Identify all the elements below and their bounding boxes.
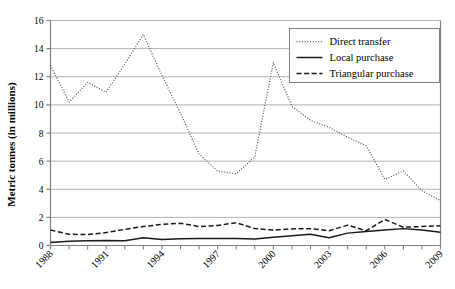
y-tick-label: 10: [34, 100, 44, 110]
line-chart: 0246810121416 19881991199419972000200320…: [0, 0, 455, 289]
x-tick-label: 1991: [89, 248, 111, 270]
x-tick-label: 2000: [256, 248, 278, 270]
x-tick-label: 2009: [423, 248, 445, 270]
x-tick-label: 1994: [144, 248, 166, 270]
legend-label: Direct transfer: [330, 36, 391, 47]
legend-label: Local purchase: [330, 52, 394, 63]
y-tick-label: 2: [39, 213, 44, 223]
y-axis-tick-labels: 0246810121416: [34, 16, 51, 251]
y-tick-label: 16: [34, 16, 44, 26]
x-tick-label: 1988: [33, 248, 55, 270]
y-tick-label: 6: [39, 157, 44, 167]
x-axis-tick-labels: 19881991199419972000200320062009: [33, 248, 445, 270]
chart-figure: Metric tonnes (in millions) 024681012141…: [0, 0, 455, 289]
series-line-triangular-purchase: [51, 219, 441, 234]
x-tick-label: 2003: [312, 248, 334, 270]
y-tick-label: 12: [34, 72, 44, 82]
series-line-local-purchase: [51, 229, 441, 243]
chart-legend: Direct transferLocal purchaseTriangular …: [290, 29, 440, 83]
y-tick-label: 4: [39, 185, 44, 195]
x-tick-label: 2006: [367, 248, 389, 270]
y-tick-label: 14: [34, 44, 44, 54]
y-tick-label: 0: [39, 241, 44, 251]
y-tick-label: 8: [39, 129, 44, 139]
legend-label: Triangular purchase: [330, 68, 414, 79]
x-tick-label: 1997: [200, 248, 222, 270]
